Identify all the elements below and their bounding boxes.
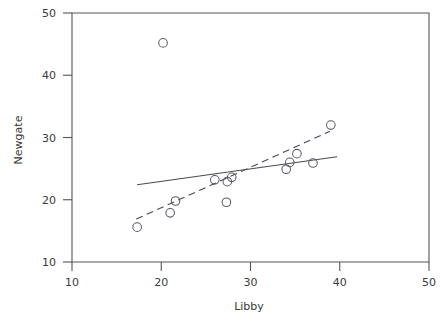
plot-background [0, 0, 446, 323]
x-axis-title: Libby [234, 300, 264, 313]
y-axis-title: Newgate [12, 115, 25, 164]
scatter-plot: 1020304050 1020304050 Libby Newgate [0, 0, 446, 323]
x-tick-label: 20 [154, 276, 168, 289]
y-tick-label: 30 [42, 132, 56, 145]
x-tick-label: 40 [333, 276, 347, 289]
y-tick-label: 50 [42, 7, 56, 20]
chart-container: 1020304050 1020304050 Libby Newgate [0, 0, 446, 323]
y-tick-label: 20 [42, 194, 56, 207]
x-tick-label: 10 [65, 276, 79, 289]
x-tick-label: 30 [244, 276, 258, 289]
x-tick-label: 50 [422, 276, 436, 289]
y-tick-label: 40 [42, 69, 56, 82]
y-tick-label: 10 [42, 256, 56, 269]
